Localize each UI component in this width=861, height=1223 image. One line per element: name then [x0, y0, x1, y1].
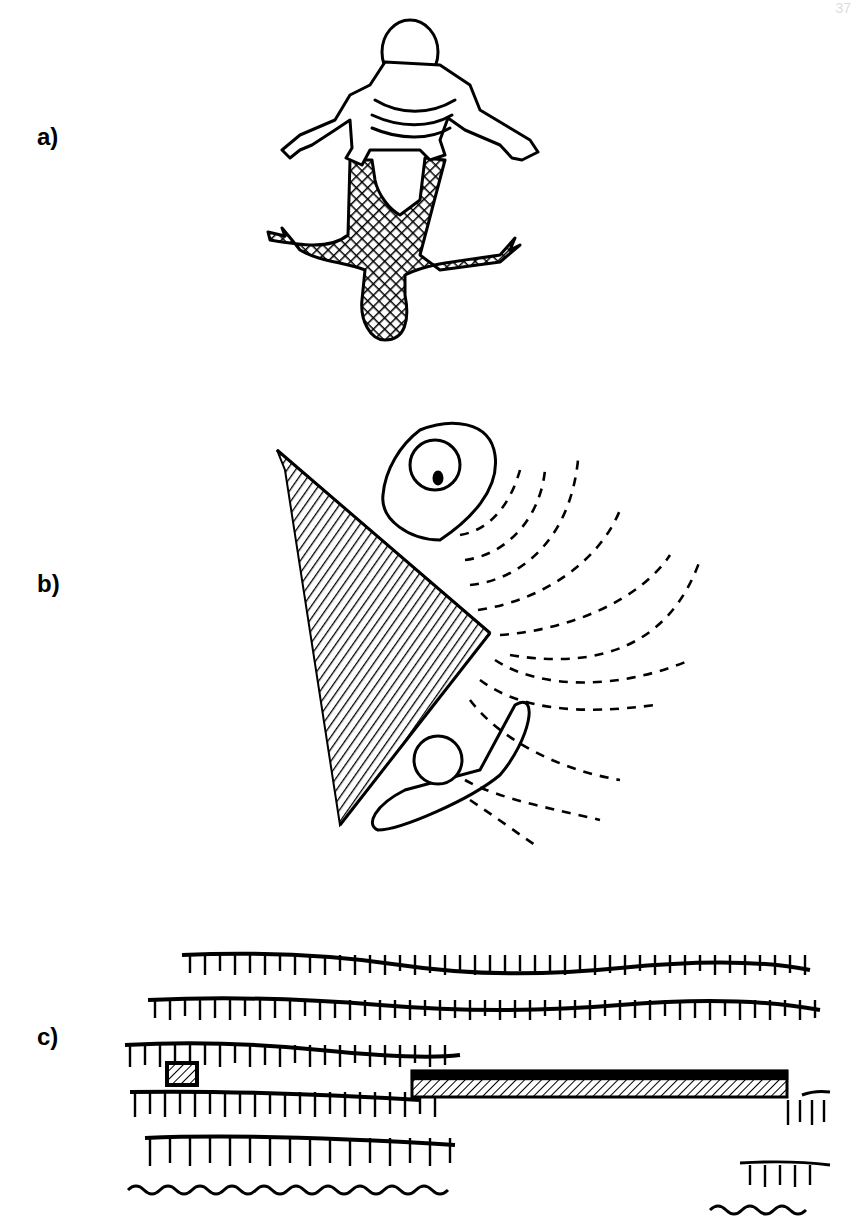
illustrations: [0, 0, 861, 1223]
figure-c-illustration: [125, 954, 830, 1214]
figure-a-illustration: [268, 20, 538, 340]
figure-b-illustration: [277, 423, 700, 845]
